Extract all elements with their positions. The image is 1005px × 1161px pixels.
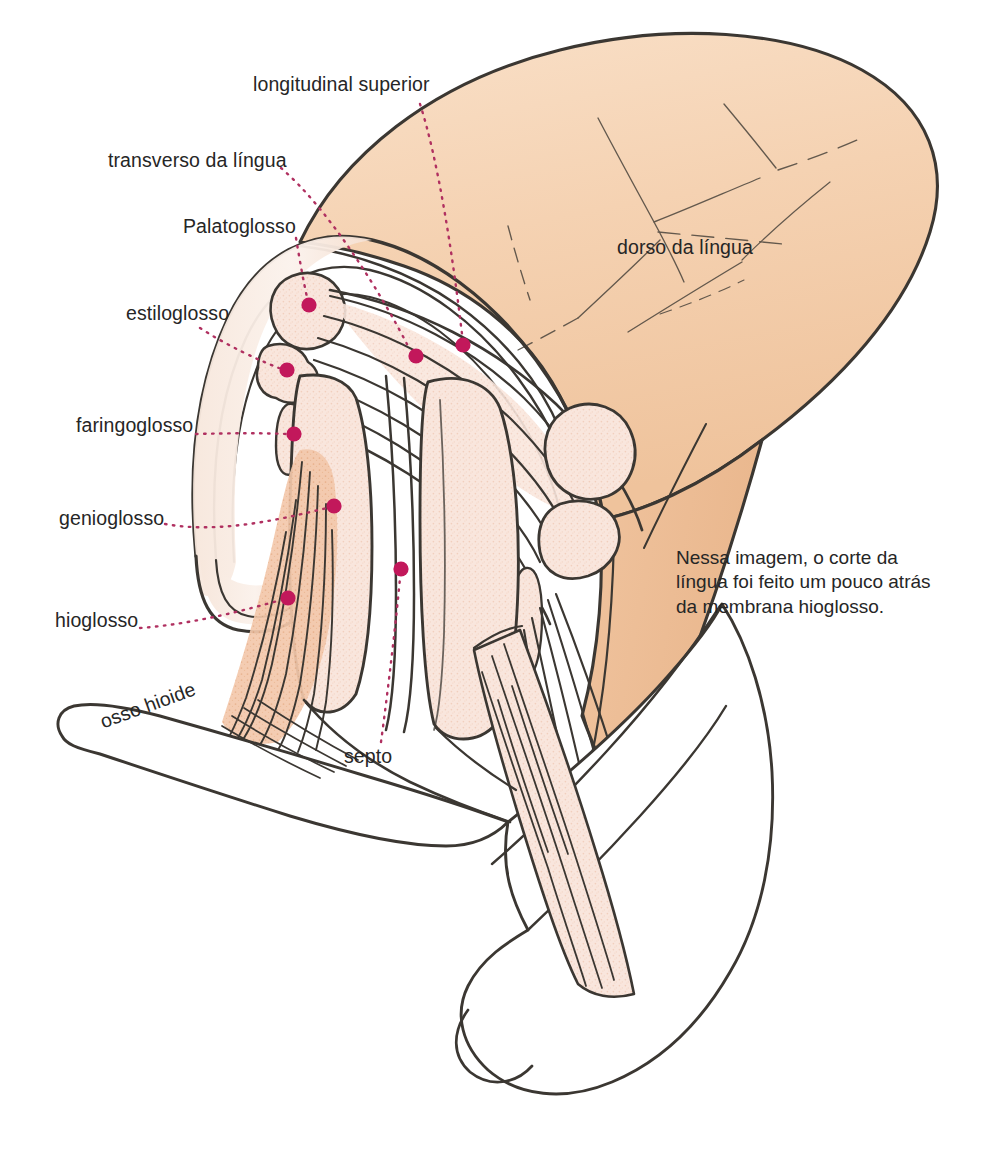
marker-estiloglosso: [279, 362, 294, 377]
label-longitudinal-superior: longitudinal superior: [253, 74, 430, 94]
marker-genioglosso: [326, 498, 341, 513]
label-genioglosso: genioglosso: [59, 508, 164, 528]
label-dorso-da-lingua: dorso da língua: [617, 237, 753, 257]
marker-transverso-da-lingua: [408, 348, 423, 363]
label-faringoglosso: faringoglosso: [76, 415, 193, 435]
muscle-blob-upper: [545, 404, 635, 499]
marker-longitudinal-superior: [455, 337, 470, 352]
section-note: Nessa imagem, o corte da língua foi feit…: [676, 546, 931, 619]
label-transverso-da-lingua: transverso da língua: [108, 150, 287, 170]
tongue-anatomy-figure: longitudinal superior transverso da líng…: [0, 0, 1005, 1161]
label-estiloglosso: estiloglosso: [126, 303, 229, 323]
label-palatoglosso: Palatoglosso: [183, 216, 296, 236]
marker-septo: [393, 561, 408, 576]
label-hioglosso: hioglosso: [55, 610, 138, 630]
label-septo: septo: [344, 746, 392, 766]
marker-faringoglosso: [286, 426, 301, 441]
marker-palatoglosso: [301, 297, 316, 312]
marker-hioglosso: [280, 590, 295, 605]
septum-band: [386, 376, 396, 730]
